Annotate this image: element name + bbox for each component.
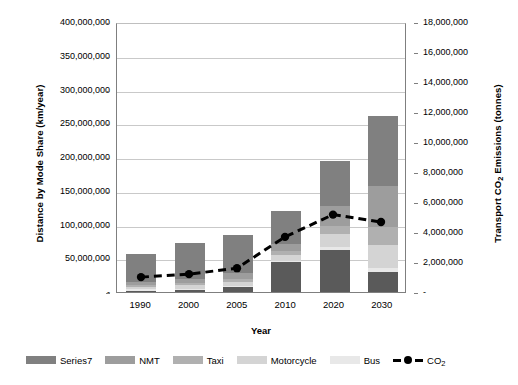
y-axis-left-tick-mark [106,91,110,92]
y-axis-left-tick-mark [106,23,110,24]
bar-segment-series7[interactable] [320,161,350,206]
bar-segment-taxi[interactable] [175,283,205,286]
y-axis-left-tick-label: 350,000,000 [30,51,110,61]
bar-segment-nmt[interactable] [271,244,301,251]
bar-group[interactable] [175,243,205,292]
bar-group[interactable] [320,161,350,292]
bar-segment-nmt[interactable] [126,282,156,285]
bar-segment-series7[interactable] [126,254,156,282]
bar-segment-bottom[interactable] [175,290,205,292]
y-axis-left-tick-label: 300,000,000 [30,85,110,95]
y-axis-right-tick-label: 4,000,000 [423,227,503,237]
bar-segment-bottom[interactable] [320,250,350,292]
gridline [117,193,405,194]
bar-segment-motorcycle[interactable] [271,255,301,261]
x-axis-tick-label: 2000 [178,299,199,310]
bar-segment-nmt[interactable] [368,186,398,227]
y-axis-left-tick-label: 100,000,000 [30,220,110,230]
legend-item-co2[interactable]: CO2 [393,355,445,366]
bar-segment-bus[interactable] [223,286,253,287]
y-axis-right-tick-mark [414,293,418,294]
bar-segment-taxi[interactable] [368,227,398,246]
bar-group[interactable] [368,116,398,292]
y-axis-left-tick-label: - [30,287,110,297]
y-axis-right-tick-label: 18,000,000 [423,17,503,27]
bar-segment-bus[interactable] [126,289,156,290]
legend-label: Motorcycle [271,355,317,366]
y-axis-right-tick-label: 12,000,000 [423,107,503,117]
legend-swatch [330,356,360,364]
bar-segment-motorcycle[interactable] [368,245,398,268]
legend-item-series7[interactable]: Series7 [26,355,92,366]
legend-label: CO2 [427,355,445,366]
x-axis-tick-label: 2010 [275,299,296,310]
bar-segment-taxi[interactable] [223,279,253,282]
x-axis-tick-label: 2005 [226,299,247,310]
bar-segment-nmt[interactable] [320,206,350,226]
y-axis-right-tick-mark [414,113,418,114]
gridline [117,227,405,228]
bar-segment-series7[interactable] [175,243,205,278]
bar-segment-motorcycle[interactable] [126,287,156,290]
legend-label: NMT [139,355,160,366]
gridline [117,159,405,160]
chart-legend: Series7NMTTaxiMotorcycleBusCO2 [26,352,496,368]
bar-segment-bottom[interactable] [271,262,301,292]
bar-group[interactable] [126,254,156,292]
legend-swatch [26,356,56,364]
bar-segment-nmt[interactable] [175,279,205,283]
y-axis-right-tick-mark [414,53,418,54]
y-axis-right-tick-label: 6,000,000 [423,197,503,207]
y-axis-left-tick-label: 250,000,000 [30,118,110,128]
y-axis-left-tick-label: 50,000,000 [30,253,110,263]
bar-segment-bottom[interactable] [368,272,398,292]
legend-label: Taxi [207,355,224,366]
legend-swatch [105,356,135,364]
bar-segment-bus[interactable] [175,289,205,290]
x-axis-title: Year [116,325,406,336]
bar-group[interactable] [271,211,301,292]
bar-segment-bottom[interactable] [223,287,253,292]
bar-segment-series7[interactable] [271,211,301,244]
legend-item-bus[interactable]: Bus [330,355,380,366]
y-axis-right-tick-label: 16,000,000 [423,47,503,57]
legend-line-marker-icon [393,356,423,365]
bar-segment-taxi[interactable] [320,226,350,234]
x-axis-ticks: 199020002005201020202030 [116,299,406,315]
y-axis-left-tick-label: 400,000,000 [30,17,110,27]
bar-segment-bottom[interactable] [126,291,156,292]
y-axis-right-tick-mark [414,203,418,204]
y-axis-left-tick-mark [106,259,110,260]
legend-item-nmt[interactable]: NMT [105,355,160,366]
legend-item-motorcycle[interactable]: Motorcycle [237,355,317,366]
bar-segment-motorcycle[interactable] [175,285,205,288]
legend-label: Bus [364,355,380,366]
bar-segment-taxi[interactable] [126,285,156,287]
legend-label: Series7 [60,355,92,366]
bar-segment-motorcycle[interactable] [223,282,253,286]
legend-dot-icon [404,356,412,364]
y-axis-right-tick-label: 2,000,000 [423,257,503,267]
gridline [117,260,405,261]
bar-segment-bus[interactable] [320,247,350,250]
gridline [117,92,405,93]
bar-segment-nmt[interactable] [223,273,253,278]
bar-segment-bus[interactable] [368,268,398,271]
bar-group[interactable] [223,235,253,292]
bar-segment-series7[interactable] [368,116,398,186]
bar-segment-motorcycle[interactable] [320,234,350,248]
gridline [117,125,405,126]
bar-segment-series7[interactable] [223,235,253,273]
y-axis-left-tick-mark [106,57,110,58]
y-axis-right-tick-mark [414,173,418,174]
bar-segment-bus[interactable] [271,261,301,262]
y-axis-left-tick-mark [106,226,110,227]
x-axis-tick-label: 2020 [323,299,344,310]
legend-item-taxi[interactable]: Taxi [173,355,224,366]
y-axis-left-tick-mark [106,293,110,294]
y-axis-right-tick-mark [414,143,418,144]
bar-segment-taxi[interactable] [271,251,301,255]
y-axis-right-tick-mark [414,263,418,264]
legend-swatch [237,356,267,364]
gridline [117,58,405,59]
